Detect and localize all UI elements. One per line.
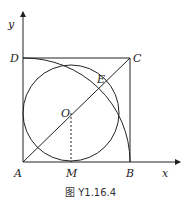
diagonal-ac [23,58,130,162]
label-x: x [162,167,169,180]
label-e: E [96,73,105,86]
label-o: O [61,107,70,120]
label-y: y [7,18,15,31]
figure-caption: 图 Y1.16.4 [65,187,116,198]
label-d: D [9,52,19,65]
label-m: M [65,167,78,180]
label-c: C [133,52,142,65]
geometry-diagram: y x D C E O A M B 图 Y1.16.4 [0,0,189,201]
label-a: A [13,167,22,180]
label-b: B [125,167,134,180]
